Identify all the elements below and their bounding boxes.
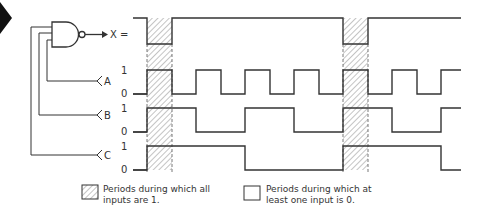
nand-gate-icon bbox=[52, 22, 103, 47]
b-level-0: 0 bbox=[121, 127, 127, 137]
input-label-a: A bbox=[104, 77, 111, 87]
section-marker-icon bbox=[0, 2, 12, 34]
waveform-b bbox=[133, 108, 461, 132]
legend-hatched-swatch bbox=[82, 185, 98, 199]
zero-level-ticks bbox=[133, 94, 147, 170]
nand-timing-diagram bbox=[0, 0, 484, 217]
output-arrow-icon bbox=[102, 31, 108, 38]
legend-hatched-text: Periods during which all inputs are 1. bbox=[103, 184, 210, 206]
hatched-periods bbox=[147, 18, 368, 172]
waveform-x bbox=[133, 18, 461, 44]
waveform-a bbox=[133, 70, 461, 94]
b-level-1: 1 bbox=[121, 104, 127, 114]
a-level-0: 0 bbox=[121, 89, 127, 99]
legend-hatched-line1: Periods during which all bbox=[103, 184, 210, 195]
hatched-period bbox=[147, 44, 172, 170]
legend-blank-line1: Periods during which at bbox=[266, 184, 372, 195]
output-label: X = bbox=[110, 30, 128, 40]
input-label-c: C bbox=[104, 151, 111, 161]
a-level-1: 1 bbox=[121, 66, 127, 76]
legend-blank-text: Periods during which at least one input … bbox=[266, 184, 372, 206]
legend-blank-line2: least one input is 0. bbox=[266, 195, 372, 206]
legend-blank-swatch bbox=[244, 186, 260, 200]
c-level-1: 1 bbox=[121, 142, 127, 152]
legend-hatched-line2: inputs are 1. bbox=[103, 195, 210, 206]
waveform-c bbox=[133, 146, 461, 170]
waveforms bbox=[133, 18, 461, 170]
hatched-period bbox=[343, 44, 368, 170]
input-label-b: B bbox=[104, 111, 111, 121]
c-level-0: 0 bbox=[121, 165, 127, 175]
